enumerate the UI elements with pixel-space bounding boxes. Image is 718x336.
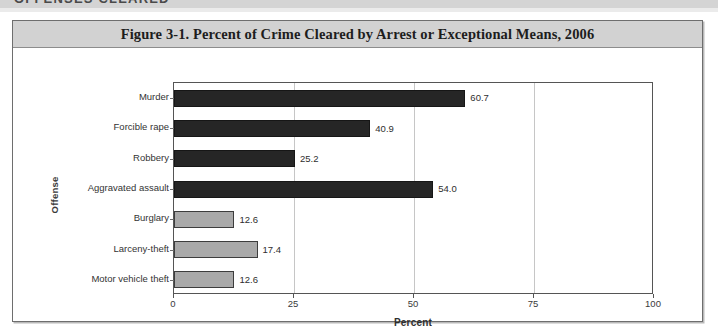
bar-row: 25.2 <box>174 150 652 168</box>
bar-value-label: 17.4 <box>263 245 282 255</box>
x-tick-label-25: 25 <box>288 299 299 309</box>
category-label: Motor vehicle theft <box>19 274 169 284</box>
x-tick-label-75: 75 <box>528 299 539 309</box>
bar-value-label: 12.6 <box>239 275 258 285</box>
category-label: Robbery <box>19 153 169 163</box>
y-tick-mark <box>170 189 174 190</box>
y-tick-mark <box>170 219 174 220</box>
bar-row: 17.4 <box>174 241 652 259</box>
category-label: Burglary <box>19 213 169 223</box>
x-tick-label-50: 50 <box>408 299 419 309</box>
figure-title: Figure 3-1. Percent of Crime Cleared by … <box>121 26 595 43</box>
y-tick-mark <box>170 128 174 129</box>
bar-value-label: 40.9 <box>375 124 394 134</box>
bar-row: 12.6 <box>174 271 652 289</box>
bar <box>174 241 258 258</box>
section-header-label: OFFENSES CLEARED <box>14 0 170 6</box>
bar-row: 12.6 <box>174 210 652 228</box>
bar <box>174 181 433 198</box>
y-tick-mark <box>170 280 174 281</box>
bar-value-label: 12.6 <box>239 215 258 225</box>
bar-row: 54.0 <box>174 180 652 198</box>
chart-canvas: Offense MurderForcible rapeRobberyAggrav… <box>13 49 702 322</box>
category-label: Forcible rape <box>19 122 169 132</box>
x-tick-label-0: 0 <box>170 299 175 309</box>
category-label-column: MurderForcible rapeRobberyAggravated ass… <box>17 82 169 294</box>
bar-row: 60.7 <box>174 89 652 107</box>
section-header-underline <box>0 8 718 12</box>
figure-container: Figure 3-1. Percent of Crime Cleared by … <box>12 20 703 322</box>
bar-value-label: 25.2 <box>300 154 319 164</box>
category-label: Murder <box>19 92 169 102</box>
x-axis-title: Percent <box>173 317 653 328</box>
bar <box>174 211 234 228</box>
category-label: Aggravated assault <box>19 183 169 193</box>
y-tick-mark <box>170 159 174 160</box>
bar-value-label: 54.0 <box>438 184 457 194</box>
x-tick-label-100: 100 <box>645 299 661 309</box>
y-tick-mark <box>170 98 174 99</box>
bar <box>174 120 370 137</box>
y-tick-mark <box>170 250 174 251</box>
bar-value-label: 60.7 <box>470 93 489 103</box>
figure-title-band: Figure 3-1. Percent of Crime Cleared by … <box>13 21 702 48</box>
section-header-strip: OFFENSES CLEARED <box>0 0 718 12</box>
bar <box>174 271 234 288</box>
plot-area: 60.740.925.254.012.617.412.6 <box>173 82 653 294</box>
category-label: Larceny-theft <box>19 244 169 254</box>
bar-row: 40.9 <box>174 119 652 137</box>
x-axis-tick-labels: 0255075100 <box>173 297 653 311</box>
bar <box>174 90 465 107</box>
bar <box>174 150 295 167</box>
